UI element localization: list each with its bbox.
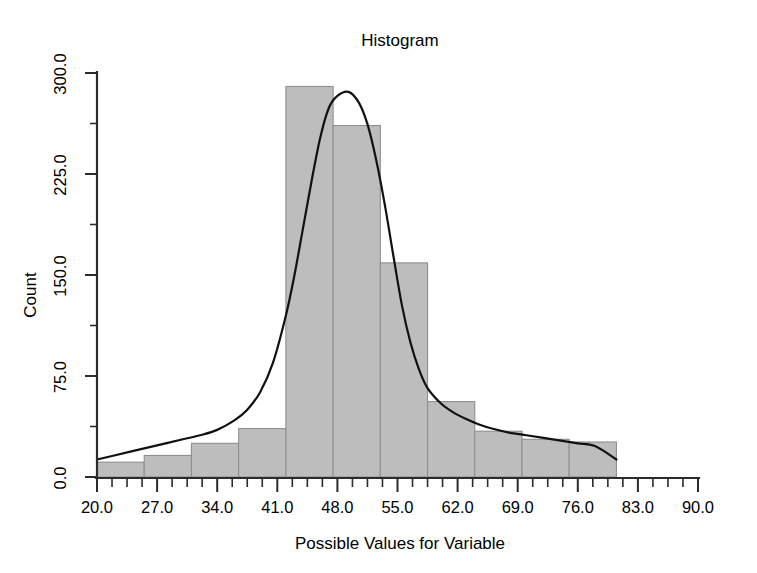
y-tick-label: 0.0 [51,467,69,490]
histogram-bar [475,431,522,477]
histogram-bar [333,126,380,477]
y-tick-label: 150.0 [51,255,69,296]
x-tick-label: 48.0 [321,498,353,516]
histogram-bars [97,86,616,477]
y-axis-label: Count [21,272,40,318]
x-tick-label: 34.0 [201,498,233,516]
y-tick-label: 75.0 [51,361,69,393]
y-tick-label: 225.0 [51,154,69,195]
chart-title: Histogram [361,31,438,50]
histogram-bar [569,442,616,477]
histogram-bar [239,429,286,477]
x-axis-tick-labels: 20.027.034.041.048.055.062.069.076.083.0… [81,498,714,516]
x-tick-label: 90.0 [682,498,714,516]
y-tick-label: 300.0 [51,53,69,94]
x-tick-label: 27.0 [141,498,173,516]
x-axis-label: Possible Values for Variable [295,534,505,553]
x-tick-label: 76.0 [562,498,594,516]
x-axis-ticks [97,478,698,492]
histogram-bar [522,439,569,477]
histogram-bar [144,455,191,477]
x-tick-label: 55.0 [381,498,413,516]
x-tick-label: 20.0 [81,498,113,516]
x-tick-label: 83.0 [622,498,654,516]
histogram-bar [380,263,427,477]
chart-canvas: Histogram 0.075.0150.0225.0300.0 20.027.… [0,0,757,573]
x-tick-label: 62.0 [442,498,474,516]
histogram-bar [97,462,144,477]
histogram-bar [428,402,475,477]
x-tick-label: 69.0 [502,498,534,516]
x-tick-label: 41.0 [261,498,293,516]
y-axis-ticks [85,73,97,477]
histogram-bar [191,443,238,477]
histogram-chart: Histogram 0.075.0150.0225.0300.0 20.027.… [0,0,757,573]
y-axis-tick-labels: 0.075.0150.0225.0300.0 [51,53,69,489]
